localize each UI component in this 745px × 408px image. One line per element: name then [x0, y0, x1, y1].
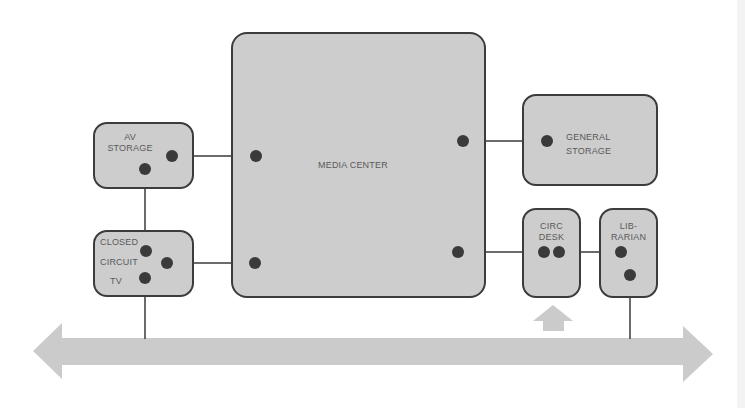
media-center-dot-right-upper — [457, 135, 469, 147]
cctv-dot-top — [140, 245, 152, 257]
librarian-label-line2: RARIAN — [599, 232, 658, 243]
librarian-label: LIB- RARIAN — [599, 221, 658, 243]
av-storage-dot-right — [166, 150, 178, 162]
general-storage-label-line1: GENERAL — [566, 132, 611, 143]
media-center-dot-left-upper — [250, 150, 262, 162]
librarian-dot-lower — [624, 269, 636, 281]
av-storage-label: AV STORAGE — [100, 132, 160, 154]
media-center-dot-right-lower — [452, 246, 464, 258]
media-center-dot-left-lower — [249, 257, 261, 269]
av-storage-label-line2: STORAGE — [100, 143, 160, 154]
cctv-label-line3: TV — [110, 276, 122, 287]
entrance-up-arrow — [533, 305, 573, 331]
circ-desk-dot-left — [538, 246, 550, 258]
cctv-label-line2: CIRCUIT — [100, 257, 138, 268]
librarian-dot-upper — [615, 246, 627, 258]
general-storage-label-line2: STORAGE — [566, 146, 611, 157]
cctv-dot-right — [161, 257, 173, 269]
circ-desk-label: CIRC DESK — [522, 221, 581, 243]
librarian-label-line1: LIB- — [599, 221, 658, 232]
cctv-label-line1: CLOSED — [100, 237, 138, 248]
circ-desk-label-line2: DESK — [522, 232, 581, 243]
av-storage-dot-bottom — [139, 163, 151, 175]
general-storage-label: GENERAL STORAGE — [566, 132, 611, 157]
av-storage-label-line1: AV — [100, 132, 160, 143]
cctv-dot-bottom — [139, 272, 151, 284]
general-storage-dot — [541, 135, 553, 147]
media-center-label: MEDIA CENTER — [318, 160, 388, 171]
circ-desk-label-line1: CIRC — [522, 221, 581, 232]
circ-desk-dot-right — [553, 246, 565, 258]
corridor-double-arrow — [33, 323, 713, 382]
